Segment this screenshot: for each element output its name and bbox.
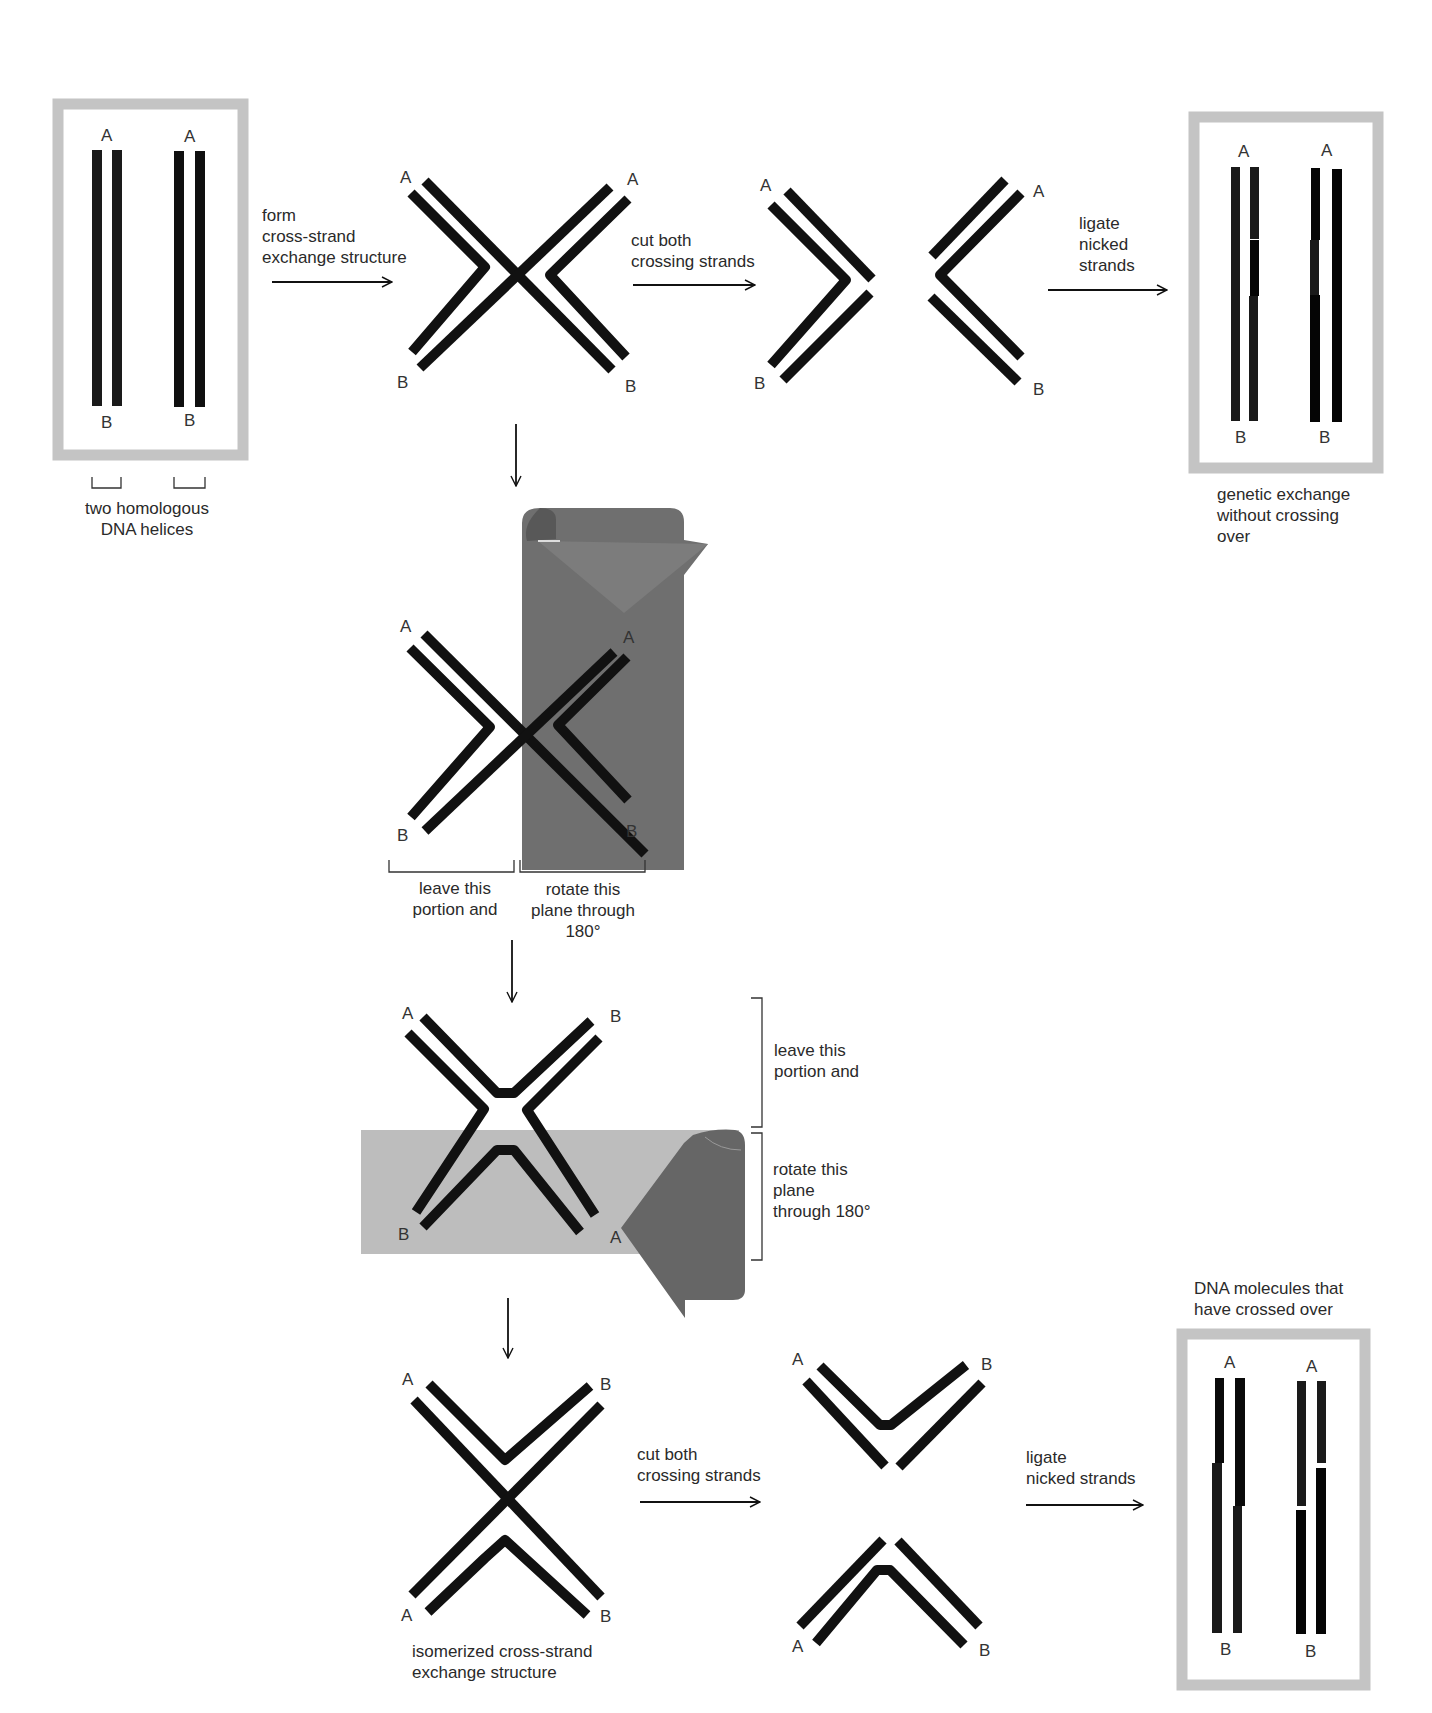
start-helix1-top-label: A: [101, 126, 112, 146]
rotate1-br-label: B: [626, 822, 637, 842]
result-no-crossover-box: [1194, 117, 1378, 468]
rotate2-bl-label: B: [398, 1225, 409, 1245]
cut2-tr-label: B: [981, 1355, 992, 1375]
isomerized-exchange-structure: [412, 1384, 601, 1615]
rotate1-left-caption: leave this portion and: [398, 878, 512, 920]
result1-helix1-bottom-label: B: [1235, 428, 1246, 448]
result1-helix2-bottom-label: B: [1319, 428, 1330, 448]
cut2-tl-label: A: [792, 1350, 803, 1370]
rotate2-top-caption: leave this portion and: [774, 1040, 859, 1082]
result-crossover-box: [1182, 1334, 1365, 1685]
rotate2-tr-label: B: [610, 1007, 621, 1027]
rotate1-tl-label: A: [400, 617, 411, 637]
start-caption: two homologous DNA helices: [76, 498, 218, 540]
result2-helix1-top-label: A: [1224, 1353, 1235, 1373]
rotate2-bottom-caption: rotate this plane through 180°: [773, 1159, 871, 1222]
step4-label: cut both crossing strands: [637, 1444, 761, 1486]
step5-label: ligate nicked strands: [1026, 1447, 1136, 1489]
cross1-bl-label: B: [397, 373, 408, 393]
isomer-bl-label: A: [401, 1606, 412, 1626]
result2-helix1-bottom-label: B: [1220, 1640, 1231, 1660]
cut2-br-label: B: [979, 1641, 990, 1661]
start-helix2-bottom-label: B: [184, 411, 195, 431]
start-dna-box: [58, 104, 243, 455]
rotate2-tl-label: A: [402, 1004, 413, 1024]
result2-caption: DNA molecules that have crossed over: [1194, 1278, 1343, 1320]
rotate1-bl-label: B: [397, 826, 408, 846]
rotate-plane-vertical: [522, 508, 708, 870]
cut2-bl-label: A: [792, 1637, 803, 1657]
cut1-tl-label: A: [760, 176, 771, 196]
cross1-tl-label: A: [400, 168, 411, 188]
step2-label: cut both crossing strands: [631, 230, 755, 272]
isomer-caption: isomerized cross-strand exchange structu…: [412, 1641, 592, 1683]
cut1-bl-label: B: [754, 374, 765, 394]
result1-helix1-top-label: A: [1238, 142, 1249, 162]
cut-halves-2: [800, 1365, 982, 1645]
result1-helix2-top-label: A: [1321, 141, 1332, 161]
start-helix2-top-label: A: [184, 127, 195, 147]
cut1-br-label: B: [1033, 380, 1044, 400]
result2-helix2-top-label: A: [1306, 1357, 1317, 1377]
rotate2-br-label: A: [610, 1228, 621, 1248]
step1-label: form cross-strand exchange structure: [262, 205, 407, 268]
cut-halves-1: [771, 180, 1021, 382]
isomer-tl-label: A: [402, 1370, 413, 1390]
step3-label: ligate nicked strands: [1079, 213, 1135, 276]
helix-brackets: [92, 477, 205, 488]
result1-caption: genetic exchange without crossing over: [1217, 484, 1350, 547]
isomer-tr-label: B: [600, 1375, 611, 1395]
cut1-tr-label: A: [1033, 182, 1044, 202]
cross1-br-label: B: [625, 377, 636, 397]
result2-helix2-bottom-label: B: [1305, 1642, 1316, 1662]
cross1-tr-label: A: [627, 170, 638, 190]
isomer-br-label: B: [600, 1607, 611, 1627]
rotate-brackets-vertical: [751, 998, 762, 1260]
rotate1-tr-label: A: [623, 628, 634, 648]
cross-strand-exchange-structure: [411, 181, 628, 370]
rotate1-right-caption: rotate this plane through 180°: [518, 879, 648, 942]
start-helix1-bottom-label: B: [101, 413, 112, 433]
